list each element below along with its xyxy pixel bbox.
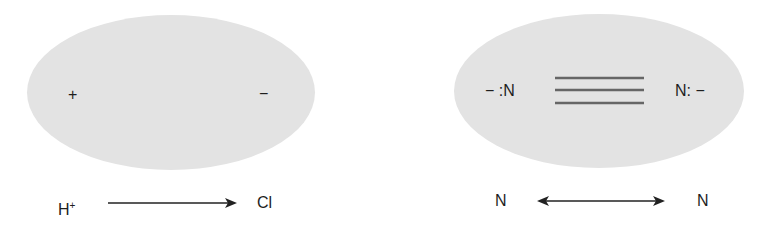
diagram-lines (0, 0, 773, 227)
arrow-right-icon (108, 198, 237, 208)
triple-bond-icon (555, 78, 644, 103)
double-arrow-icon (537, 196, 665, 206)
